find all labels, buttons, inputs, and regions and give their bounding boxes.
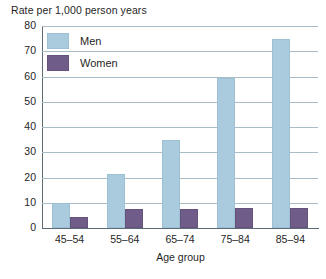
bar-women-65-74 xyxy=(180,209,198,228)
y-tick-label: 40 xyxy=(24,121,36,132)
x-tick-label: 75–84 xyxy=(208,233,263,246)
bar-men-65-74 xyxy=(162,140,180,228)
bar-men-75-84 xyxy=(217,78,235,228)
bar-women-55-64 xyxy=(125,209,143,228)
y-tick-label: 10 xyxy=(24,197,36,208)
y-tick-label: 0 xyxy=(30,222,36,233)
bar-group xyxy=(217,26,253,228)
legend-label-women: Women xyxy=(80,57,118,69)
x-axis-tick-labels: 45–5455–6465–7475–8485–94 xyxy=(42,233,319,249)
x-axis-line xyxy=(42,228,319,229)
legend-item-men: Men xyxy=(47,30,118,52)
y-tick-label: 80 xyxy=(24,20,36,31)
y-tick-label: 60 xyxy=(24,71,36,82)
y-tick-label: 50 xyxy=(24,96,36,107)
bar-women-85-94 xyxy=(290,208,308,228)
bar-men-55-64 xyxy=(107,174,125,228)
bar-group xyxy=(162,26,198,228)
legend-label-men: Men xyxy=(80,35,101,47)
y-tick-label: 20 xyxy=(24,172,36,183)
y-axis-tick-labels: 01020304050607080 xyxy=(0,0,36,279)
bar-men-45-54 xyxy=(52,203,70,228)
legend-swatch-women-icon xyxy=(47,55,69,71)
y-tick-label: 70 xyxy=(24,45,36,56)
legend-item-women: Women xyxy=(47,52,118,74)
x-axis-title: Age group xyxy=(42,251,319,264)
x-tick-label: 85–94 xyxy=(263,233,318,246)
x-tick-label: 55–64 xyxy=(97,233,152,246)
bar-men-85-94 xyxy=(272,39,290,228)
chart-figure: Rate per 1,000 person years 010203040506… xyxy=(0,0,326,279)
legend-swatch-men-icon xyxy=(47,33,69,49)
bar-women-45-54 xyxy=(70,217,88,228)
x-tick-label: 65–74 xyxy=(152,233,207,246)
bar-women-75-84 xyxy=(235,208,253,228)
chart-legend: Men Women xyxy=(47,30,118,74)
x-tick-label: 45–54 xyxy=(42,233,97,246)
bar-group xyxy=(272,26,308,228)
y-tick-label: 30 xyxy=(24,146,36,157)
